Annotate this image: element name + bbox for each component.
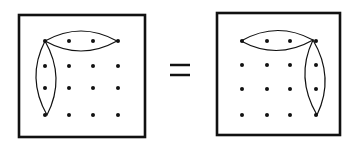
grid-dot: [265, 87, 269, 91]
grid-dot: [288, 113, 292, 117]
grid-dot: [288, 39, 292, 43]
grid-dot: [240, 63, 244, 67]
grid-dot: [43, 39, 47, 43]
grid-dot: [314, 87, 318, 91]
grid-dot: [116, 39, 120, 43]
grid-dot: [288, 87, 292, 91]
grid-dot: [67, 64, 71, 68]
grid-dot: [67, 86, 71, 90]
diagram-canvas: [0, 0, 358, 145]
grid-dot: [67, 39, 71, 43]
grid-dot: [116, 64, 120, 68]
grid-dot: [91, 113, 95, 117]
panel-frame: [217, 13, 340, 135]
grid-dot: [265, 39, 269, 43]
grid-dot: [43, 64, 47, 68]
grid-dot: [314, 63, 318, 67]
right-panel: [217, 13, 340, 135]
grid-dot: [43, 86, 47, 90]
grid-dot: [314, 39, 318, 43]
grid-dot: [91, 86, 95, 90]
grid-dot: [116, 113, 120, 117]
grid-dot: [265, 113, 269, 117]
grid-dot: [314, 113, 318, 117]
top-row-loop: [45, 31, 117, 51]
grid-dot: [116, 86, 120, 90]
grid-dot: [91, 39, 95, 43]
panel-frame: [19, 15, 145, 137]
grid-dot: [288, 63, 292, 67]
grid-dot: [240, 39, 244, 43]
grid-dot: [265, 63, 269, 67]
top-row-loop: [241, 30, 313, 50]
left-column-loop: [36, 41, 56, 115]
equals-sign: [170, 65, 190, 75]
grid-dot: [43, 113, 47, 117]
right-column-loop: [305, 40, 325, 115]
grid-dot: [240, 113, 244, 117]
grid-dot: [91, 64, 95, 68]
grid-dot: [67, 113, 71, 117]
grid-dot: [240, 87, 244, 91]
left-panel: [19, 15, 145, 137]
